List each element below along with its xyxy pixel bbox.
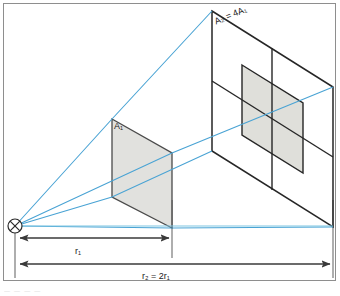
dimension-arrows: [20, 238, 330, 264]
inverse-square-law-diagram: [0, 0, 340, 296]
near-distance-label: r₁: [75, 246, 81, 256]
near-plane-label: A₁: [114, 121, 123, 131]
caption-fragment: — — — —: [4, 288, 114, 293]
far-distance-label: r₂ = 2r₁: [142, 271, 170, 281]
far-plane-dividers: [212, 48, 333, 190]
point-source-cross-circle-icon: [8, 219, 22, 233]
figure-root: A₁ A₂ = 4A₁ r₁ r₂ = 2r₁ — — — —: [0, 0, 340, 296]
